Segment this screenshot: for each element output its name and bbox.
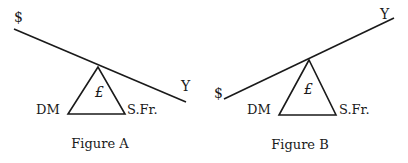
figure-a-yen-label: Y bbox=[180, 78, 191, 94]
figure-a-pound-label: £ bbox=[94, 84, 104, 100]
figure-b-pound-label: £ bbox=[303, 81, 313, 97]
figure-b-sfr-label: S.Fr. bbox=[339, 102, 370, 117]
figure-b-dm-label: DM bbox=[247, 102, 271, 117]
seesaw-diagram: $ Y £ DM S.Fr. Figure A $ Y £ DM S.Fr. F… bbox=[0, 0, 408, 163]
figure-a: $ Y £ DM S.Fr. Figure A bbox=[14, 9, 191, 151]
figure-b-caption: Figure B bbox=[271, 137, 328, 152]
figure-b-yen-label: Y bbox=[379, 6, 390, 22]
figure-a-dm-label: DM bbox=[36, 102, 60, 117]
figure-a-caption: Figure A bbox=[71, 136, 129, 151]
figure-a-dollar-label: $ bbox=[14, 9, 23, 25]
figure-b-dollar-label: $ bbox=[214, 85, 223, 101]
figure-b: $ Y £ DM S.Fr. Figure B bbox=[214, 6, 394, 152]
figure-a-sfr-label: S.Fr. bbox=[127, 102, 158, 117]
